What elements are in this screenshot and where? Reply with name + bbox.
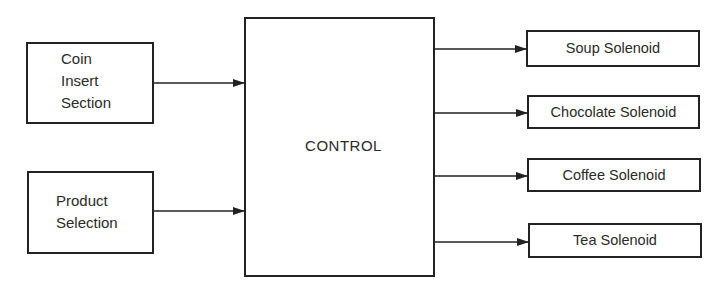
coffee-solenoid-label: Coffee Solenoid [529,167,699,183]
tea-solenoid-box: Tea Solenoid [528,223,702,258]
control-label: CONTROL [246,137,433,154]
coffee-solenoid-box: Coffee Solenoid [527,158,701,192]
label-line: Selection [56,212,152,234]
label-line: Coin [61,48,152,70]
product-selection-label: Product Selection [56,190,152,234]
product-selection-box: Product Selection [27,171,154,254]
control-box: CONTROL [244,17,435,277]
chocolate-solenoid-box: Chocolate Solenoid [527,95,700,129]
tea-solenoid-label: Tea Solenoid [530,232,700,248]
label-line: Insert [61,70,152,92]
label-line: Product [56,190,152,212]
soup-solenoid-label: Soup Solenoid [528,40,698,56]
chocolate-solenoid-label: Chocolate Solenoid [529,104,698,120]
coin-insert-section-label: Coin Insert Section [61,48,152,114]
coin-insert-section-box: Coin Insert Section [26,42,154,124]
soup-solenoid-box: Soup Solenoid [526,30,700,67]
label-line: Section [61,92,152,114]
